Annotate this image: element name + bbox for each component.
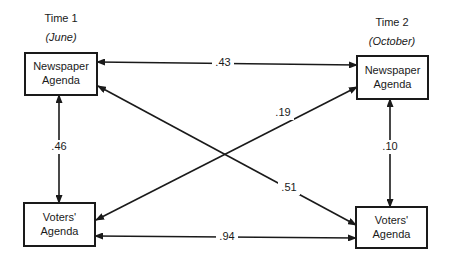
edge-coefficient-label: .46 <box>51 140 66 152</box>
node-label-line1: Voters' <box>375 214 408 226</box>
node-voters-agenda-time1: Voters' Agenda <box>24 203 95 246</box>
node-label-line1: Voters' <box>43 211 76 223</box>
node-label-line2: Agenda <box>41 225 80 237</box>
edge-coefficient-label: .51 <box>281 181 296 193</box>
node-label-line2: Agenda <box>374 78 413 90</box>
time1-period: (June) <box>45 31 77 43</box>
edge-coefficient-label: .94 <box>219 230 234 242</box>
edge-np1-v1: .46 <box>48 95 70 203</box>
edge-coefficient-label: .10 <box>382 140 397 152</box>
edge-np1-np2: .43 <box>97 56 357 70</box>
node-label-line1: Newspaper <box>365 64 421 76</box>
time2-period: (October) <box>369 35 416 47</box>
edge-v1-v2: .94 <box>95 230 356 244</box>
edge-coefficient-label: .43 <box>215 56 230 68</box>
edge-coefficient-label: .19 <box>275 106 290 118</box>
node-label-line1: Newspaper <box>33 60 89 72</box>
time2-label: Time 2 <box>375 16 408 28</box>
cross-lagged-diagram: Time 1 (June) Time 2 (October) .43.46.10… <box>0 0 454 263</box>
edge-v1-np2: .19 <box>96 87 357 220</box>
node-newspaper-agenda-time2: Newspaper Agenda <box>357 56 428 99</box>
node-newspaper-agenda-time1: Newspaper Agenda <box>25 53 97 95</box>
edge-np2-v2: .10 <box>379 99 401 207</box>
node-voters-agenda-time2: Voters' Agenda <box>356 207 427 248</box>
edge-arrow <box>96 87 357 220</box>
node-label-line2: Agenda <box>42 74 81 86</box>
time1-label: Time 1 <box>44 12 77 24</box>
node-label-line2: Agenda <box>373 228 412 240</box>
